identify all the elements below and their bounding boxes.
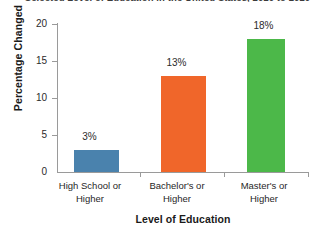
x-axis-line	[57, 172, 309, 173]
y-tick-label-15: 15	[17, 55, 47, 66]
x-tick-mark-1	[140, 172, 141, 177]
x-category-label-bachelors: Bachelor's or Higher	[132, 180, 222, 205]
bar-high-school[interactable]	[74, 150, 119, 172]
bar-value-label-high-school: 3%	[57, 131, 122, 142]
chart-title: Selected Level of Education in the Unite…	[0, 0, 335, 2]
x-category-label-high-school-line1: High School or	[45, 180, 135, 193]
bar-value-label-bachelors: 13%	[144, 57, 209, 68]
bar-chart: Selected Level of Education in the Unite…	[0, 0, 335, 235]
x-category-label-masters-line1: Master's or	[219, 180, 309, 193]
y-tick-label-5: 5	[17, 129, 47, 140]
bar-bachelors[interactable]	[161, 76, 206, 172]
bars-layer	[57, 24, 309, 172]
x-tick-mark-2	[224, 172, 225, 177]
x-category-label-high-school-line2: Higher	[45, 193, 135, 206]
y-tick-label-10: 10	[17, 92, 47, 103]
x-category-label-masters-line2: Higher	[219, 193, 309, 206]
x-axis-title: Level of Education	[57, 213, 309, 225]
bar-masters[interactable]	[247, 39, 285, 172]
x-category-label-bachelors-line2: Higher	[132, 193, 222, 206]
y-tick-label-0: 0	[17, 166, 47, 177]
x-tick-mark-3	[308, 172, 309, 177]
y-tick-label-20: 20	[17, 18, 47, 29]
x-category-label-high-school: High School or Higher	[45, 180, 135, 205]
bar-value-label-masters: 18%	[231, 20, 296, 31]
x-category-label-masters: Master's or Higher	[219, 180, 309, 205]
x-category-label-bachelors-line1: Bachelor's or	[132, 180, 222, 193]
